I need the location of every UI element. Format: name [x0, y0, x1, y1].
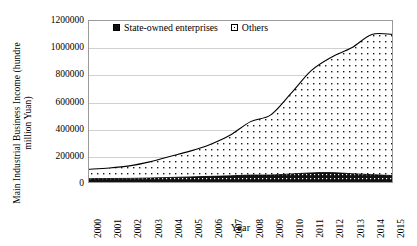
y-axis-tick-label: 400000 — [56, 124, 85, 134]
y-axis-title-line2: million Yuan) — [23, 42, 35, 204]
y-axis-tick-labels: 020000040000060000080000010000001200000 — [38, 0, 84, 246]
legend-label-state-owned: State-owned enterprises — [124, 22, 218, 33]
filled-square-icon — [113, 24, 120, 31]
x-axis-title: Year — [88, 222, 393, 233]
y-axis-tick-label: 800000 — [56, 69, 85, 79]
legend-item-state-owned: State-owned enterprises — [113, 22, 218, 33]
y-axis-tick-label: 0 — [79, 178, 84, 188]
y-axis-tick-label: 200000 — [56, 151, 85, 161]
chart-figure: Main Industrial Business Income (hundre … — [0, 0, 417, 246]
x-axis-tick-labels: 2000200120022003200420052006200720082009… — [88, 185, 393, 221]
y-axis-tick-label: 1000000 — [51, 42, 84, 52]
legend-item-others: Others — [231, 22, 268, 33]
y-axis-title-line1: Main Industrial Business Income (hundre — [12, 42, 24, 204]
legend-label-others: Others — [242, 22, 268, 33]
stacked-area-series — [89, 21, 392, 182]
dotted-square-icon — [231, 24, 238, 31]
x-axis-tick-label: 2015 — [396, 219, 406, 238]
y-axis-tick-label: 600000 — [56, 97, 85, 107]
chart-legend: State-owned enterprises Others — [113, 22, 268, 33]
plot-area — [88, 20, 393, 183]
y-axis-tick-label: 1200000 — [51, 15, 84, 25]
